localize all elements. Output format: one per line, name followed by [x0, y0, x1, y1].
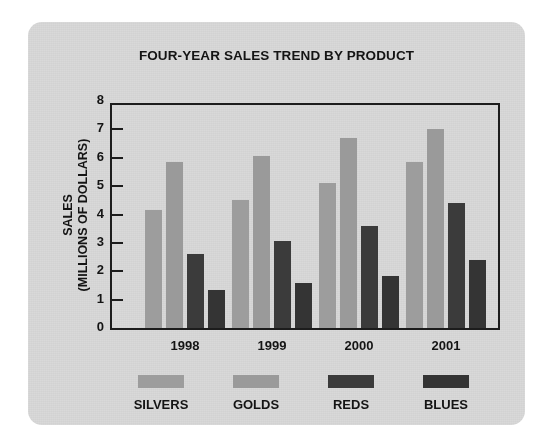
- y-axis-tick-mark: [112, 299, 123, 301]
- y-axis-title-line2: (MILLIONS OF DOLLARS): [76, 120, 91, 310]
- y-axis-tick-mark: [112, 270, 123, 272]
- bar-golds-1999[interactable]: [253, 156, 270, 328]
- bar-reds-2000[interactable]: [361, 226, 378, 328]
- bar-reds-1998[interactable]: [187, 254, 204, 328]
- x-axis-label-2000: 2000: [314, 338, 404, 353]
- bar-group-1999: [232, 105, 316, 328]
- y-axis-tick-label: 0: [90, 319, 104, 334]
- y-axis-tick-mark: [112, 157, 123, 159]
- y-axis-tick-label: 4: [90, 206, 104, 221]
- y-axis-tick-label: 1: [90, 291, 104, 306]
- plot-area: 012345678: [110, 103, 500, 330]
- y-axis-tick-mark: [112, 185, 123, 187]
- chart-card: FOUR-YEAR SALES TREND BY PRODUCT SALES (…: [28, 22, 525, 425]
- legend-label-golds: GOLDS: [201, 397, 311, 412]
- y-axis-tick-label: 5: [90, 177, 104, 192]
- bar-silvers-1999[interactable]: [232, 200, 249, 328]
- bar-reds-1999[interactable]: [274, 241, 291, 328]
- bar-blues-1999[interactable]: [295, 283, 312, 328]
- legend-item-blues[interactable]: BLUES: [391, 374, 501, 412]
- bar-group-1998: [145, 105, 229, 328]
- y-axis-tick-mark: [112, 242, 123, 244]
- y-axis-tick-mark: [112, 214, 123, 216]
- bar-golds-2000[interactable]: [340, 138, 357, 328]
- plot-inner: 012345678: [112, 105, 498, 328]
- bar-blues-1998[interactable]: [208, 290, 225, 328]
- bar-blues-2001[interactable]: [469, 260, 486, 328]
- y-axis-tick-label: 8: [90, 92, 104, 107]
- legend-label-silvers: SILVERS: [106, 397, 216, 412]
- y-axis-tick-label: 3: [90, 234, 104, 249]
- legend-item-golds[interactable]: GOLDS: [201, 374, 311, 412]
- bar-silvers-2001[interactable]: [406, 162, 423, 328]
- legend-swatch-silvers: [138, 375, 184, 388]
- legend-swatch-golds: [233, 375, 279, 388]
- x-axis-label-2001: 2001: [401, 338, 491, 353]
- bar-blues-2000[interactable]: [382, 276, 399, 328]
- bar-golds-1998[interactable]: [166, 162, 183, 328]
- bar-silvers-1998[interactable]: [145, 210, 162, 328]
- bar-group-2000: [319, 105, 403, 328]
- bar-reds-2001[interactable]: [448, 203, 465, 328]
- bar-group-2001: [406, 105, 490, 328]
- y-axis-title-line1: SALES: [61, 120, 76, 310]
- legend-item-reds[interactable]: REDS: [296, 374, 406, 412]
- bar-silvers-2000[interactable]: [319, 183, 336, 328]
- y-axis-tick-label: 2: [90, 262, 104, 277]
- legend-item-silvers[interactable]: SILVERS: [106, 374, 216, 412]
- y-axis-tick-label: 7: [90, 120, 104, 135]
- legend-label-blues: BLUES: [391, 397, 501, 412]
- legend-swatch-blues: [423, 375, 469, 388]
- x-axis-label-1999: 1999: [227, 338, 317, 353]
- y-axis-title: SALES (MILLIONS OF DOLLARS): [61, 120, 91, 310]
- chart-title: FOUR-YEAR SALES TREND BY PRODUCT: [28, 48, 525, 63]
- x-axis-label-1998: 1998: [140, 338, 230, 353]
- legend-swatch-reds: [328, 375, 374, 388]
- bar-golds-2001[interactable]: [427, 129, 444, 328]
- chart-legend: SILVERSGOLDSREDSBLUES: [28, 374, 525, 420]
- y-axis-tick-label: 6: [90, 149, 104, 164]
- y-axis-tick-mark: [112, 128, 123, 130]
- legend-label-reds: REDS: [296, 397, 406, 412]
